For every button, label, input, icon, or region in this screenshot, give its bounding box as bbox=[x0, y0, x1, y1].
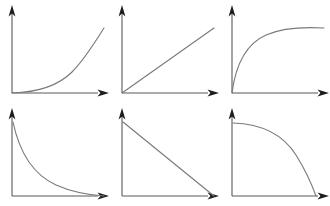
x-axis-arrowhead-icon bbox=[208, 90, 220, 97]
panel-grid bbox=[0, 0, 330, 206]
panel-concave-increasing bbox=[220, 0, 330, 103]
panel-convex-decreasing bbox=[0, 103, 110, 206]
curve-convex-decreasing bbox=[13, 122, 104, 196]
curve-linear-decreasing bbox=[123, 122, 214, 196]
curve-concave-increasing bbox=[232, 28, 324, 93]
x-axis-arrowhead-icon bbox=[318, 193, 330, 200]
x-axis-arrowhead-icon bbox=[318, 90, 330, 97]
panel-linear-increasing bbox=[110, 0, 220, 103]
panel-convex-increasing bbox=[0, 0, 110, 103]
panel-linear-decreasing bbox=[110, 103, 220, 206]
x-axis-arrowhead-icon bbox=[98, 90, 110, 97]
curve-linear-increasing bbox=[122, 28, 214, 93]
curve-concave-decreasing bbox=[233, 123, 316, 196]
curve-convex-increasing bbox=[12, 28, 104, 93]
panel-concave-decreasing bbox=[220, 103, 330, 206]
figure-root bbox=[0, 0, 330, 206]
